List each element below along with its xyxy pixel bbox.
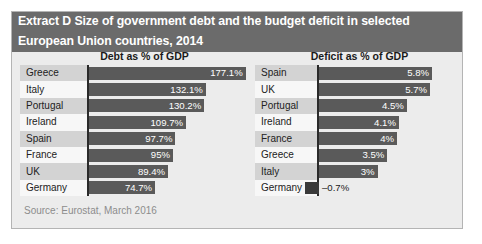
- bar-track: 109.7%: [87, 114, 241, 130]
- bar-track: 3.5%: [317, 147, 454, 163]
- figure-title-line-1: Extract D Size of government debt and th…: [12, 12, 462, 32]
- table-row: Italy132.1%: [20, 81, 241, 97]
- table-row: Spain97.7%: [20, 131, 241, 147]
- deficit-chart: Deficit as % of GDP Spain5.8%UK5.7%Portu…: [249, 50, 454, 196]
- table-row: France95%: [20, 147, 241, 163]
- bar-value-label: –0.7%: [319, 183, 349, 193]
- figure-title-line-2: European Union countries, 2014: [12, 32, 462, 52]
- bar-value-label: 97.7%: [145, 134, 172, 144]
- bar-track: 95%: [87, 147, 241, 163]
- bar-value-label: 130.2%: [169, 101, 202, 111]
- bar-track: 74.7%: [87, 180, 241, 196]
- bar: 5.7%: [319, 83, 430, 96]
- bar: 97.7%: [89, 132, 175, 145]
- bar: 130.2%: [89, 99, 204, 112]
- category-label: Ireland: [20, 114, 87, 130]
- table-row: France4%: [255, 131, 454, 147]
- deficit-chart-rows: Spain5.8%UK5.7%Portugal4.5%Ireland4.1%Fr…: [255, 65, 454, 196]
- figure-panel: Extract D Size of government debt and th…: [11, 11, 463, 229]
- table-row: UK89.4%: [20, 163, 241, 179]
- table-row: UK5.7%: [255, 81, 454, 97]
- category-label: Greece: [255, 147, 317, 163]
- debt-chart-rows: Greece177.1%Italy132.1%Portugal130.2%Ire…: [20, 65, 241, 196]
- category-label: Italy: [20, 81, 87, 97]
- table-row: Greece3.5%: [255, 147, 454, 163]
- category-label: Germany: [20, 180, 87, 196]
- bar: 109.7%: [89, 116, 186, 129]
- bar: 132.1%: [89, 83, 206, 96]
- table-row: Ireland109.7%: [20, 114, 241, 130]
- category-label: Portugal: [255, 98, 317, 114]
- figure-title-banner: Extract D Size of government debt and th…: [12, 12, 462, 52]
- bar-track: 177.1%: [87, 65, 246, 81]
- bar-track: 89.4%: [87, 163, 241, 179]
- category-label: Greece: [20, 65, 87, 81]
- bar-value-label: 74.7%: [125, 183, 152, 193]
- table-row: Germany74.7%: [20, 180, 241, 196]
- category-label: Ireland: [255, 114, 317, 130]
- bar: 4%: [319, 132, 397, 145]
- bar: 5.8%: [319, 67, 432, 80]
- bar-value-label: 4%: [380, 134, 394, 144]
- bar: 95%: [89, 149, 173, 162]
- bar-value-label: 3.5%: [362, 150, 384, 160]
- bar: 3%: [319, 165, 378, 178]
- table-row: Germany–0.7%: [255, 180, 454, 196]
- category-label: Spain: [20, 131, 87, 147]
- category-label: France: [20, 147, 87, 163]
- bar-value-label: 95%: [151, 150, 170, 160]
- category-label: UK: [20, 163, 87, 179]
- category-label: France: [255, 131, 317, 147]
- bar-track: 132.1%: [87, 81, 241, 97]
- bar: 3.5%: [319, 149, 387, 162]
- bar-track: 4.1%: [317, 114, 454, 130]
- negative-bar: [305, 182, 319, 194]
- bar-value-label: 177.1%: [210, 68, 243, 78]
- bar-track: 3%: [317, 163, 454, 179]
- debt-chart-title: Debt as % of GDP: [20, 50, 241, 62]
- bar-value-label: 4.5%: [382, 101, 404, 111]
- bar-value-label: 109.7%: [151, 118, 184, 128]
- bar-value-label: 132.1%: [170, 85, 203, 95]
- table-row: Greece177.1%: [20, 65, 241, 81]
- bar-track: –0.7%: [317, 180, 454, 196]
- debt-chart: Debt as % of GDP Greece177.1%Italy132.1%…: [20, 50, 249, 196]
- bar: 4.1%: [319, 116, 399, 129]
- bar: 89.4%: [89, 165, 168, 178]
- bar-track: 5.7%: [317, 81, 454, 97]
- bar-value-label: 5.7%: [405, 85, 427, 95]
- bar: 4.5%: [319, 99, 407, 112]
- table-row: Ireland4.1%: [255, 114, 454, 130]
- bar-value-label: 3%: [361, 167, 375, 177]
- charts-container: Debt as % of GDP Greece177.1%Italy132.1%…: [12, 50, 462, 196]
- bar-value-label: 89.4%: [138, 167, 165, 177]
- bar-track: 130.2%: [87, 98, 241, 114]
- bar-track: 4.5%: [317, 98, 454, 114]
- bar-track: 4%: [317, 131, 454, 147]
- extract-figure: Extract D Size of government debt and th…: [0, 0, 482, 244]
- bar: 177.1%: [89, 67, 246, 80]
- bar-track: 97.7%: [87, 131, 241, 147]
- bar-track: 5.8%: [317, 65, 454, 81]
- bar: 74.7%: [89, 181, 155, 194]
- table-row: Italy3%: [255, 163, 454, 179]
- source-note: Source: Eurostat, March 2016: [24, 205, 157, 216]
- category-label: Portugal: [20, 98, 87, 114]
- deficit-chart-title: Deficit as % of GDP: [255, 50, 454, 62]
- category-label: Spain: [255, 65, 317, 81]
- category-label: UK: [255, 81, 317, 97]
- table-row: Spain5.8%: [255, 65, 454, 81]
- bar-value-label: 5.8%: [407, 68, 429, 78]
- category-label: Italy: [255, 163, 317, 179]
- table-row: Portugal4.5%: [255, 98, 454, 114]
- table-row: Portugal130.2%: [20, 98, 241, 114]
- bar-value-label: 4.1%: [374, 118, 396, 128]
